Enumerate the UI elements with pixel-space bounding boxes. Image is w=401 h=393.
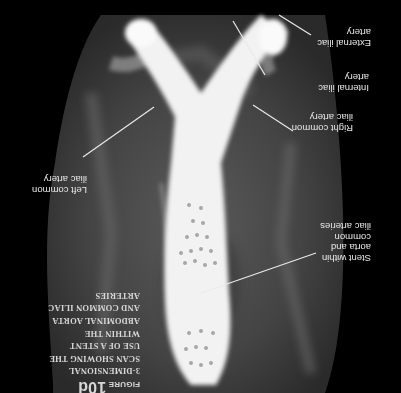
- label-right-common-iliac: Right common iliac artery: [283, 112, 353, 133]
- figure-caption: FIGURE 10d 3-DIMENSIONAL SCAN SHOWING TH…: [0, 289, 140, 393]
- label-stent: Stent within aorta and common iliac arte…: [301, 221, 371, 263]
- ct-scan-figure: Stent within aorta and common iliac arte…: [0, 0, 401, 393]
- label-external-iliac: External iliac artery: [301, 27, 371, 48]
- label-left-common-iliac: Left common iliac artery: [17, 174, 87, 195]
- figure-canvas: Stent within aorta and common iliac arte…: [0, 0, 401, 393]
- label-internal-iliac: Internal iliac artery: [299, 72, 369, 93]
- figure-number: FIGURE 10d: [0, 377, 140, 393]
